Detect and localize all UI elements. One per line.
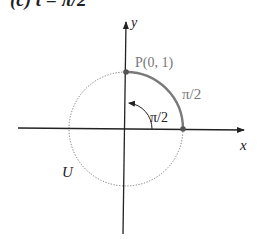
x-axis [18,128,244,130]
angle-arc-icon [129,103,152,129]
angle-label: π/2 [150,110,168,125]
point-1-0 [180,126,186,132]
x-axis-label: x [239,137,247,153]
arc-label: π/2 [182,86,201,102]
unit-circle-diagram: (c) t = π/2 y x P(0, 1) π/2 π/2 U [0,0,263,239]
y-axis-label: y [129,15,138,30]
title: (c) t = π/2 [10,0,87,11]
point-p-label: P(0, 1) [135,55,173,71]
circle-label: U [62,164,74,180]
y-axis [123,22,126,234]
point-p [123,69,129,75]
